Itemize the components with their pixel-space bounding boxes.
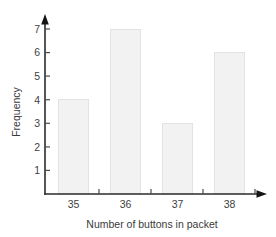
bar-36 (111, 30, 141, 195)
x-tick-label-35: 35 (68, 198, 80, 210)
x-axis-arrow-icon (257, 190, 268, 198)
y-tick-label-4: 4 (34, 94, 40, 106)
y-axis: 1 2 3 4 5 6 7 (34, 14, 50, 194)
y-tick-label-3: 3 (34, 117, 40, 129)
bars-group (59, 30, 245, 195)
bar-chart-figure: 1 2 3 4 5 6 7 35 36 37 38 Number of butt… (0, 0, 276, 237)
bar-35 (59, 100, 89, 195)
y-tick-label-1: 1 (34, 164, 40, 176)
x-tick-label-36: 36 (120, 198, 132, 210)
chart-canvas: 1 2 3 4 5 6 7 35 36 37 38 Number of butt… (0, 0, 276, 237)
y-tick-label-2: 2 (34, 141, 40, 153)
y-axis-title: Frequency (10, 86, 22, 136)
x-axis-title: Number of buttons in packet (86, 218, 217, 230)
y-tick-label-7: 7 (34, 23, 40, 35)
x-tick-label-38: 38 (224, 198, 236, 210)
y-tick-label-6: 6 (34, 46, 40, 58)
x-tick-label-37: 37 (172, 198, 184, 210)
bar-37 (163, 124, 193, 195)
y-axis-arrow-icon (41, 14, 49, 25)
bar-38 (215, 53, 245, 195)
y-tick-label-5: 5 (34, 70, 40, 82)
